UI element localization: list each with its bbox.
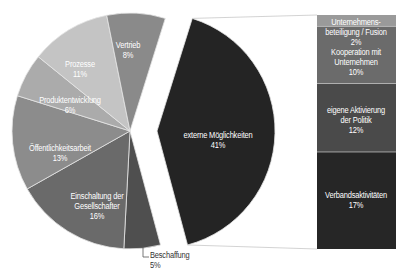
label-einschaltung: Einschaltung der Gesellschafter 16% bbox=[57, 191, 136, 221]
label-politik: eigene Aktivierung der Politik 12% bbox=[318, 105, 394, 135]
label-vertrieb: Vertrieb 8% bbox=[106, 40, 150, 60]
connector-line bbox=[188, 245, 317, 249]
label-externe-moeglichkeiten: externe Möglichkeiten 41% bbox=[174, 130, 262, 150]
connector-line bbox=[192, 15, 317, 18]
label-beteiligung: Unternehmens- beteiligung / Fusion 2% bbox=[318, 17, 394, 47]
label-oeffentlichkeitsarbeit: Öffentlichkeitsarbeit 13% bbox=[16, 143, 104, 163]
label-beschaffung: Beschaffung 5% bbox=[150, 250, 203, 270]
label-prozesse: Prozesse 11% bbox=[54, 59, 107, 79]
label-produktentwicklung: Produktentwicklung 6% bbox=[26, 95, 114, 115]
label-verbandsaktivitaeten: Verbandsaktivitäten 17% bbox=[318, 190, 394, 210]
label-kooperation: Kooperation mit Unternehmen 10% bbox=[318, 47, 394, 77]
